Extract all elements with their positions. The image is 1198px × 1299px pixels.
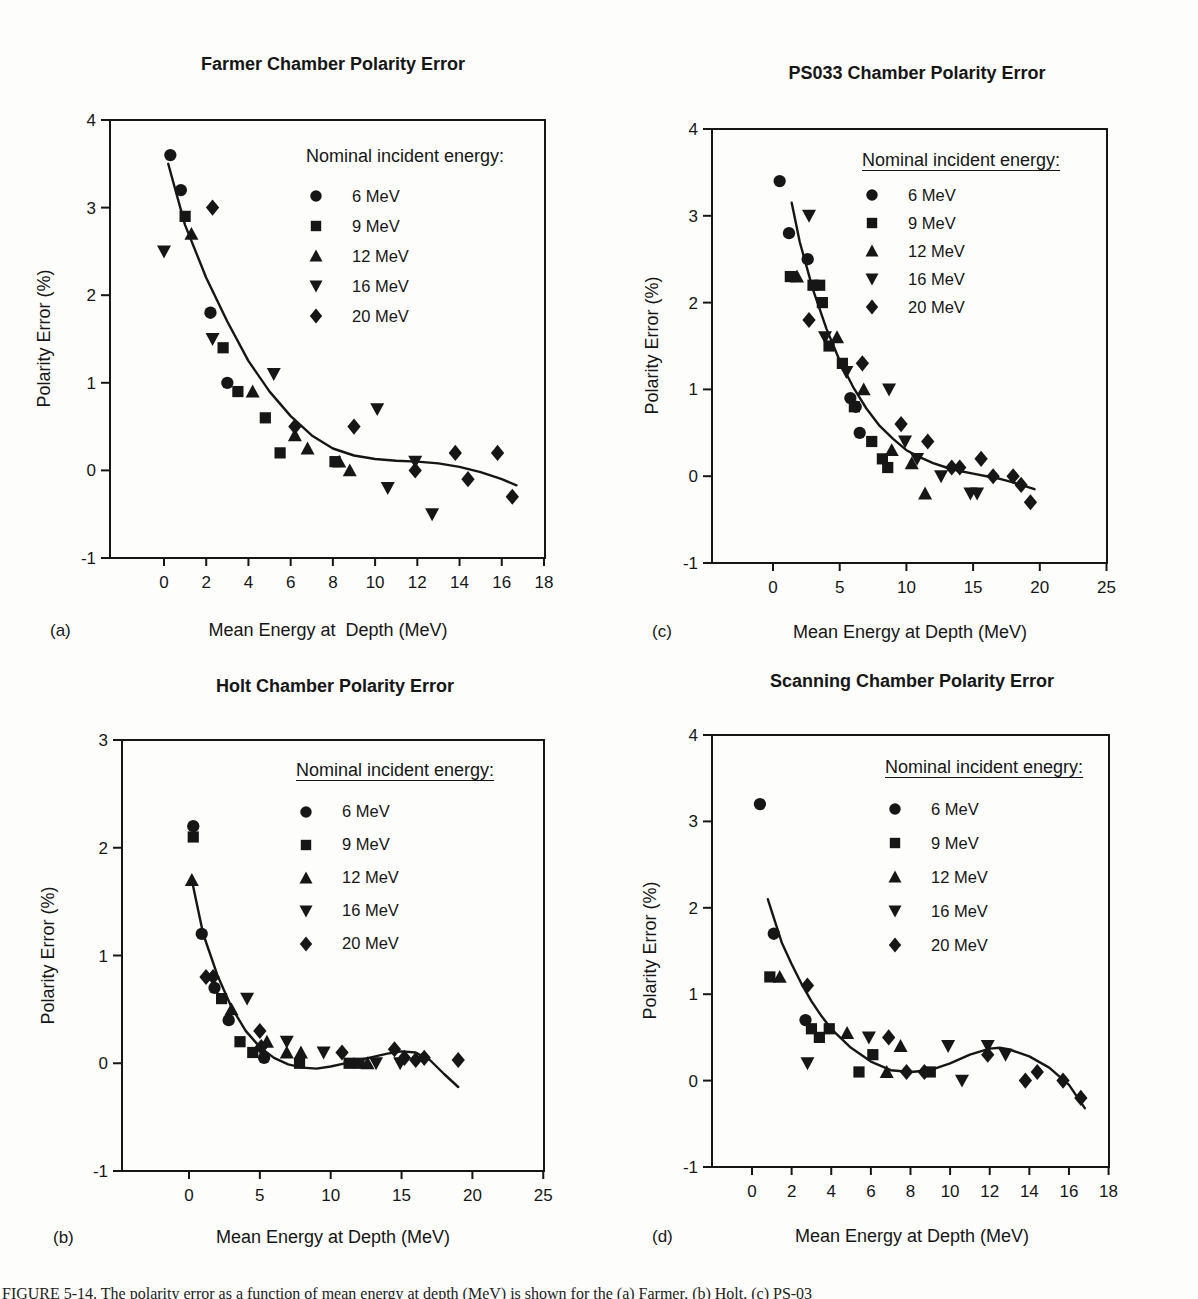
data-point-triangle-up [840, 1026, 854, 1039]
y-tick-label: 2 [689, 899, 698, 918]
x-tick-label: 6 [286, 573, 295, 592]
triangle-down-legend-icon [306, 277, 326, 295]
data-point-triangle-down [941, 1040, 955, 1053]
data-point-square [866, 436, 877, 447]
x-tick-label: 5 [255, 1186, 264, 1205]
data-point-square [260, 412, 271, 423]
data-point-diamond [506, 489, 519, 505]
data-point-circle [204, 307, 216, 319]
legend-item-label: 20 MeV [352, 307, 409, 326]
panel-a-legend: Nominal incident energy: 6 MeV9 MeV12 Me… [306, 146, 504, 331]
legend-item-label: 6 MeV [931, 800, 979, 819]
data-point-square [764, 971, 775, 982]
circle-legend-icon [296, 803, 316, 821]
legend-item: 16 MeV [306, 271, 504, 301]
data-point-triangle-down [866, 273, 879, 285]
y-tick-label: 3 [689, 207, 698, 226]
data-point-diamond [253, 1023, 266, 1039]
data-point-triangle-down [310, 280, 323, 292]
legend-item-label: 20 MeV [908, 298, 965, 317]
legend-item: 9 MeV [306, 211, 504, 241]
data-point-triangle-up [857, 382, 871, 395]
x-tick-label: 6 [866, 1182, 875, 1201]
data-point-circle [221, 377, 233, 389]
data-point-diamond [206, 200, 219, 216]
data-point-triangle-up [889, 871, 902, 883]
triangle-up-legend-icon [862, 242, 882, 260]
panel-d-letter: (d) [652, 1227, 673, 1247]
y-tick-label: 1 [99, 947, 108, 966]
data-point-diamond [921, 433, 934, 449]
data-point-triangle-up [310, 250, 323, 262]
y-tick-label: -1 [93, 1162, 108, 1181]
circle-legend-icon [862, 186, 882, 204]
legend-item: 20 MeV [306, 301, 504, 331]
data-point-square [216, 993, 227, 1004]
panel-c-title: PS033 Chamber Polarity Error [788, 63, 1045, 84]
data-point-triangle-down [839, 366, 853, 379]
data-point-triangle-down [206, 333, 220, 346]
legend-item-label: 20 MeV [342, 934, 399, 953]
x-tick-label: 4 [827, 1182, 836, 1201]
x-tick-label: 20 [463, 1186, 482, 1205]
legend-item-label: 16 MeV [342, 901, 399, 920]
legend-rows: 6 MeV9 MeV12 MeV16 MeV20 MeV [862, 181, 1060, 321]
y-tick-label: 4 [87, 111, 96, 130]
data-point-triangle-down [300, 905, 313, 917]
data-point-square [867, 1049, 878, 1060]
data-point-square [824, 1023, 835, 1034]
data-point-diamond [452, 1052, 465, 1068]
data-point-diamond [953, 459, 966, 475]
data-point-circle [866, 189, 877, 200]
x-tick-label: 12 [408, 573, 427, 592]
data-point-circle [164, 149, 176, 161]
y-tick-label: 2 [99, 839, 108, 858]
y-tick-label: 2 [87, 286, 96, 305]
panel-d-title: Scanning Chamber Polarity Error [770, 671, 1054, 692]
square-legend-icon [885, 834, 905, 852]
x-tick-label: 16 [1059, 1182, 1078, 1201]
data-point-square [188, 831, 199, 842]
x-tick-label: 14 [1020, 1182, 1039, 1201]
triangle-down-legend-icon [296, 902, 316, 920]
y-tick-label: 1 [689, 985, 698, 1004]
y-tick-label: 0 [689, 467, 698, 486]
data-point-diamond [300, 936, 312, 951]
data-point-square [853, 1066, 864, 1077]
panel-a-letter: (a) [50, 621, 71, 641]
legend-item-label: 12 MeV [342, 868, 399, 887]
data-point-circle [196, 928, 208, 940]
legend-item-label: 6 MeV [908, 186, 956, 205]
legend-item: 12 MeV [296, 861, 494, 894]
data-point-triangle-up [885, 443, 899, 456]
data-point-triangle-down [862, 1031, 876, 1044]
panel-b-title: Holt Chamber Polarity Error [216, 676, 454, 697]
data-point-square [180, 211, 191, 222]
legend-item: 16 MeV [885, 894, 1083, 928]
data-point-triangle-down [267, 368, 281, 381]
panel-d-xaxis-label: Mean Energy at Depth (MeV) [795, 1226, 1029, 1247]
data-point-triangle-up [918, 487, 932, 500]
data-point-diamond [1019, 1073, 1032, 1089]
legend-item-label: 9 MeV [352, 217, 400, 236]
legend-item: 9 MeV [862, 209, 1060, 237]
data-point-square [301, 839, 311, 849]
figure-caption: FIGURE 5-14. The polarity error as a fun… [2, 1285, 1198, 1299]
legend-item: 16 MeV [862, 265, 1060, 293]
data-point-circle [223, 1014, 235, 1026]
data-point-diamond [449, 445, 462, 461]
legend-item-label: 6 MeV [352, 187, 400, 206]
data-point-square [232, 386, 243, 397]
x-tick-label: 18 [535, 573, 554, 592]
legend-item-label: 12 MeV [908, 242, 965, 261]
y-tick-label: 1 [689, 380, 698, 399]
data-point-diamond [491, 445, 504, 461]
data-point-diamond [900, 1064, 913, 1080]
data-point-diamond [802, 312, 815, 328]
legend-item: 20 MeV [885, 928, 1083, 962]
data-point-diamond [288, 419, 301, 435]
data-point-triangle-up [830, 330, 844, 343]
data-point-triangle-down [370, 403, 384, 416]
data-point-circle [754, 798, 766, 810]
x-tick-label: 18 [1099, 1182, 1118, 1201]
